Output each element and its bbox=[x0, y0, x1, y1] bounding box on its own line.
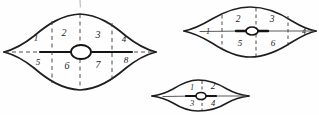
large-lens-label-2: 2 bbox=[62, 27, 67, 38]
medium-lens-label-1: 1 bbox=[206, 27, 210, 36]
large-lens-label-6: 6 bbox=[65, 60, 70, 71]
lens-diagram: 1 2 3 4 5 6 7 8 1 bbox=[0, 0, 319, 115]
small-lens-figure: 1 2 3 4 bbox=[152, 80, 249, 111]
small-lens-label-2: 2 bbox=[211, 81, 216, 91]
small-lens-label-4: 4 bbox=[211, 98, 216, 108]
large-lens-label-8: 8 bbox=[124, 55, 129, 65]
small-lens-label-1: 1 bbox=[190, 83, 194, 92]
large-lens-figure: 1 2 3 4 5 6 7 8 bbox=[4, 0, 156, 90]
figure-canvas: 1 2 3 4 5 6 7 8 1 bbox=[0, 0, 319, 115]
medium-lens-label-6: 6 bbox=[271, 38, 276, 48]
medium-lens-label-2: 2 bbox=[236, 14, 241, 24]
large-lens-center-node bbox=[71, 45, 91, 59]
medium-lens-figure: 1 2 3 4 5 6 bbox=[184, 7, 316, 57]
small-lens-label-3: 3 bbox=[189, 98, 194, 108]
medium-lens-label-3: 3 bbox=[269, 14, 275, 24]
medium-lens-center-node bbox=[246, 27, 258, 35]
large-lens-label-1: 1 bbox=[34, 33, 39, 43]
small-lens-center-node bbox=[196, 93, 206, 100]
medium-lens-label-5: 5 bbox=[238, 38, 243, 48]
large-lens-label-7: 7 bbox=[96, 59, 102, 70]
medium-lens-label-4: 4 bbox=[302, 27, 306, 36]
large-lens-label-4: 4 bbox=[122, 34, 127, 44]
large-lens-label-5: 5 bbox=[36, 57, 41, 67]
large-lens-label-3: 3 bbox=[95, 29, 101, 40]
